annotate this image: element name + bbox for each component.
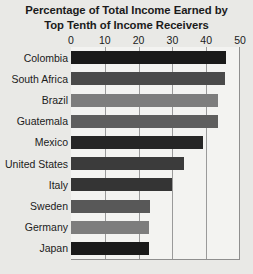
category-label-japan: Japan [0, 242, 68, 255]
bar-brazil [71, 94, 218, 107]
category-label-germany: Germany [0, 221, 68, 234]
x-tick-10: 10 [92, 34, 118, 46]
bar-chart: Percentage of Total Income Earned by Top… [0, 0, 253, 274]
bars-layer [71, 47, 240, 259]
x-tick-20: 20 [126, 34, 152, 46]
category-label-guatemala: Guatemala [0, 115, 68, 128]
y-axis-category-labels: ColombiaSouth AfricaBrazilGuatemalaMexic… [0, 47, 68, 259]
bar-japan [71, 242, 149, 255]
bar-guatemala [71, 115, 218, 128]
category-label-sweden: Sweden [0, 200, 68, 213]
category-label-mexico: Mexico [0, 136, 68, 149]
bar-italy [71, 178, 172, 191]
chart-title-line-1: Percentage of Total Income Earned by [25, 4, 228, 16]
plot-area [71, 47, 240, 260]
bar-colombia [71, 51, 226, 64]
bar-mexico [71, 136, 203, 149]
category-label-united-states: United States [0, 158, 68, 171]
category-label-brazil: Brazil [0, 94, 68, 107]
bar-germany [71, 221, 149, 234]
bar-south-africa [71, 72, 225, 85]
category-label-italy: Italy [0, 179, 68, 192]
x-tick-40: 40 [193, 34, 219, 46]
bar-united-states [71, 157, 184, 170]
bar-sweden [71, 200, 150, 213]
chart-title: Percentage of Total Income Earned by Top… [0, 3, 253, 32]
x-axis-tick-labels: 01020304050 [0, 34, 253, 47]
category-label-colombia: Colombia [0, 52, 68, 65]
x-tick-0: 0 [58, 34, 84, 46]
x-tick-30: 30 [159, 34, 185, 46]
x-tick-50: 50 [227, 34, 253, 46]
category-label-south-africa: South Africa [0, 73, 68, 86]
chart-title-line-2: Top Tenth of Income Receivers [0, 18, 253, 33]
